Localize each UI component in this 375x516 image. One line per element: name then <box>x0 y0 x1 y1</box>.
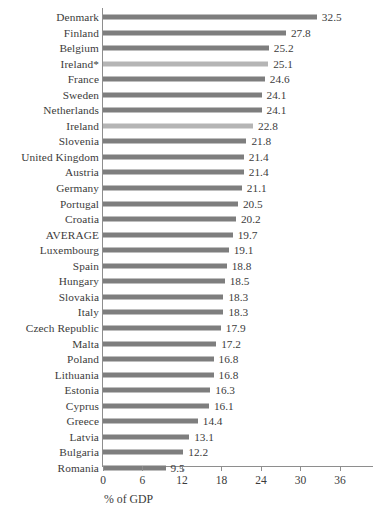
x-tick-mark <box>103 466 104 471</box>
x-tick-mark <box>142 466 143 471</box>
x-tick-label: 24 <box>255 474 267 487</box>
x-axis-ticks: 061218243036 <box>0 0 375 516</box>
x-tick-label: 30 <box>295 474 307 487</box>
x-tick-mark <box>340 466 341 471</box>
x-tick-mark <box>221 466 222 471</box>
x-tick-mark <box>182 466 183 471</box>
x-tick-label: 12 <box>176 474 188 487</box>
x-tick-label: 36 <box>334 474 346 487</box>
x-tick-mark <box>261 466 262 471</box>
x-tick-label: 6 <box>140 474 146 487</box>
x-tick-label: 0 <box>100 474 106 487</box>
x-axis-title: % of GDP <box>104 492 153 506</box>
x-tick-mark <box>300 466 301 471</box>
x-tick-label: 18 <box>216 474 228 487</box>
bar-chart: Denmark32.5Finland27.8Belgium25.2Ireland… <box>0 0 375 516</box>
plot-area: Denmark32.5Finland27.8Belgium25.2Ireland… <box>0 0 375 516</box>
